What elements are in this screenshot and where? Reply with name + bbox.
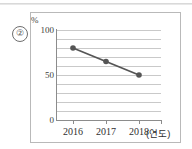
y-axis-line [56,29,57,121]
item-number-badge: ② [12,26,28,42]
gridline-40 [57,84,161,85]
y-axis-tick-label-50: 50 [30,70,54,80]
x-axis-title: (연도) [146,126,170,140]
x-axis-tick-2016 [73,120,74,124]
gridline-100 [57,30,161,31]
gridline-50 [57,75,161,76]
x-axis-label-2016: 2016 [56,126,90,137]
gridline-70 [57,57,161,58]
y-axis-unit-label: % [31,15,38,25]
gridline-60 [57,66,161,67]
gridline-80 [57,48,161,49]
x-axis-line [56,120,162,121]
x-axis-tick-2018 [139,120,140,124]
page-top-rule-shadow [0,4,192,5]
y-axis-tick-label-0: 0 [30,115,54,125]
gridline-20 [57,102,161,103]
x-axis-tick-2017 [106,120,107,124]
gridline-90 [57,39,161,40]
y-axis-tick-label-100: 100 [30,25,54,35]
gridline-10 [57,111,161,112]
x-axis-label-2017: 2017 [89,126,123,137]
figure-container: ② % 100 50 0 2016 2017 2018 (연도) [0,0,192,149]
plot-gridlines [57,30,161,120]
gridline-30 [57,93,161,94]
x-axis-tick-end [161,120,162,124]
